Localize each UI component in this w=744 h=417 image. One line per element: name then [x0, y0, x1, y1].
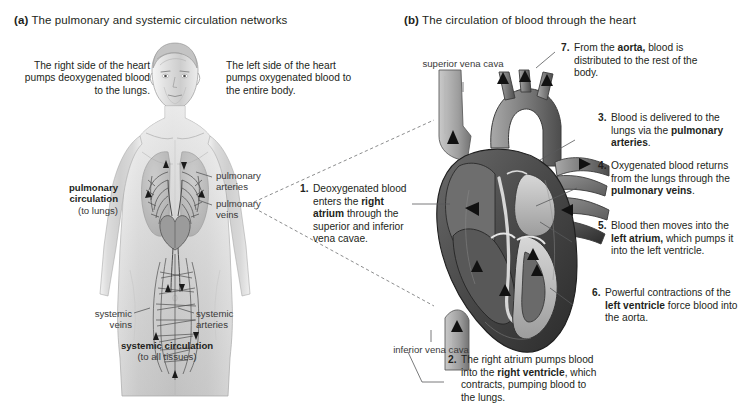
- callout-step-3-number: 3.: [598, 112, 611, 150]
- callout-step-5-number: 5.: [598, 220, 611, 258]
- figure-canvas: (a) The pulmonary and systemic circulati…: [0, 0, 744, 417]
- callout-step-2-text: The right atrium pumps blood into the ri…: [461, 354, 598, 404]
- callout-step-6: 6. Powerful contractions of the left ven…: [592, 287, 744, 325]
- callout-step-4: 4. Oxygenated blood returns from the lun…: [598, 160, 744, 198]
- callout-step-1: 1. Deoxygenated blood enters the right a…: [300, 183, 410, 246]
- callout-step-1-number: 1.: [300, 183, 313, 246]
- callout-step-3-text: Blood is delivered to the lungs via the …: [611, 112, 744, 150]
- callout-step-5-text: Blood then moves into the left atrium, w…: [611, 220, 744, 258]
- callout-step-6-text: Powerful contractions of the left ventri…: [605, 287, 744, 325]
- callout-step-5: 5. Blood then moves into the left atrium…: [598, 220, 744, 258]
- callout-step-2-number: 2.: [448, 354, 461, 404]
- callout-step-4-text: Oxygenated blood returns from the lungs …: [611, 160, 744, 198]
- callout-step-2: 2. The right atrium pumps blood into the…: [448, 354, 598, 404]
- callout-step-7: 7. From the aorta, blood is distributed …: [561, 42, 721, 80]
- callout-step-1-text: Deoxygenated blood enters the right atri…: [313, 183, 410, 246]
- callout-step-4-number: 4.: [598, 160, 611, 198]
- callout-step-6-number: 6.: [592, 287, 605, 325]
- callout-step-7-text: From the aorta, blood is distributed to …: [574, 42, 721, 80]
- callout-step-3: 3. Blood is delivered to the lungs via t…: [598, 112, 744, 150]
- callout-step-7-number: 7.: [561, 42, 574, 80]
